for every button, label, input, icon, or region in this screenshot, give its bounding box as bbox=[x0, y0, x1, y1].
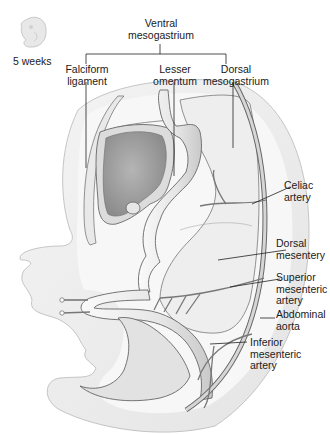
label-abdominal-aorta: Abdominal aorta bbox=[276, 309, 326, 332]
label-inferior-mesenteric-artery: Inferior mesenteric artery bbox=[250, 337, 301, 372]
label-ventral-mesogastrium: Ventral mesogastrium bbox=[124, 18, 198, 41]
embryo-icon bbox=[21, 17, 46, 47]
gallbladder bbox=[126, 202, 140, 214]
label-falciform-ligament: Falciform ligament bbox=[60, 64, 114, 87]
label-dorsal-mesentery: Dorsal mesentery bbox=[276, 238, 325, 261]
label-lesser-omentum: Lesser omentum bbox=[150, 64, 200, 87]
label-superior-mesenteric-artery: Superior mesenteric artery bbox=[276, 272, 327, 307]
label-celiac-artery: Celiac artery bbox=[284, 180, 313, 203]
label-dorsal-mesogastrium: Dorsal mesogastrium bbox=[200, 64, 272, 87]
label-stage: 5 weeks bbox=[13, 56, 52, 68]
